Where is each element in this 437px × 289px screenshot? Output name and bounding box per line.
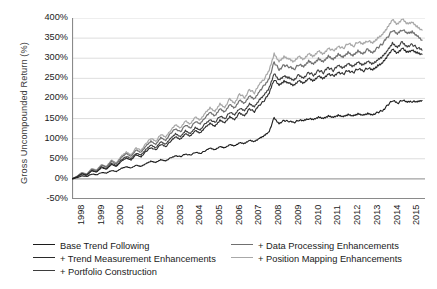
y-axis-tick: 250%: [24, 73, 68, 82]
series-canvas: [72, 18, 425, 199]
legend-item[interactable]: + Trend Measurement Enhancements: [33, 253, 216, 264]
y-axis-tick: 300%: [24, 53, 68, 62]
y-axis-tick: 50%: [24, 154, 68, 163]
x-axis-tick: 2000: [115, 205, 125, 225]
x-axis-tick: 2013: [372, 205, 382, 225]
legend-color-swatch: [231, 257, 253, 258]
y-axis-tick: -50%: [24, 194, 68, 203]
x-axis-tick: 2008: [273, 205, 283, 225]
x-axis-tick: 2005: [214, 205, 224, 225]
x-axis-tick: 2014: [392, 205, 402, 225]
legend-item[interactable]: + Portfolio Construction: [33, 266, 157, 277]
x-axis-tick: 2006: [234, 205, 244, 225]
series-line: [72, 42, 422, 179]
x-axis-tick: 2002: [155, 205, 165, 225]
x-axis-tick: 2011: [332, 205, 342, 225]
y-axis-tick: 100%: [24, 134, 68, 143]
legend-color-swatch: [231, 244, 253, 245]
x-axis-tick: 2009: [293, 205, 303, 225]
legend-item[interactable]: Base Trend Following: [33, 240, 149, 251]
legend-item[interactable]: + Data Processing Enhancements: [231, 240, 399, 251]
legend-color-swatch: [33, 244, 55, 245]
y-axis-tick: 350%: [24, 33, 68, 42]
legend-label: Base Trend Following: [60, 241, 149, 251]
y-axis-tick-labels: -50%0%50%100%150%200%250%300%350%400%: [22, 0, 68, 210]
legend-item[interactable]: + Position Mapping Enhancements: [231, 253, 402, 264]
legend-label: + Portfolio Construction: [60, 267, 157, 277]
y-axis-tick: 200%: [24, 93, 68, 102]
legend-color-swatch: [33, 257, 55, 258]
y-axis-tick: 150%: [24, 114, 68, 123]
legend-label: + Trend Measurement Enhancements: [60, 254, 216, 264]
x-axis-tick: 2012: [352, 205, 362, 225]
x-axis-tick: 2010: [313, 205, 323, 225]
plot-area: [72, 18, 425, 199]
legend-label: + Position Mapping Enhancements: [258, 254, 402, 264]
y-axis-tick: 0%: [24, 174, 68, 183]
chart-figure: Gross Uncompounded Return (%) -50%0%50%1…: [0, 0, 437, 289]
x-axis-tick: 1998: [76, 205, 86, 225]
x-axis-tick: 1999: [96, 205, 106, 225]
x-axis-tick: 2004: [194, 205, 204, 225]
x-axis-tick: 2003: [175, 205, 185, 225]
series-line: [72, 30, 422, 179]
legend-color-swatch: [33, 270, 55, 271]
y-axis-tick: 400%: [24, 13, 68, 22]
x-axis-tick: 2001: [135, 205, 145, 225]
legend-label: + Data Processing Enhancements: [258, 241, 399, 251]
x-axis-tick: 2015: [411, 205, 421, 225]
x-axis-tick: 2007: [253, 205, 263, 225]
